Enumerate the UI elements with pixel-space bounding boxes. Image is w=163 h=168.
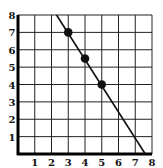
x-tick-label: 7 [132, 157, 139, 168]
y-tick-label: 2 [9, 114, 16, 125]
data-point [97, 80, 106, 89]
x-tick-label: 4 [82, 157, 89, 168]
y-tick-label: 3 [9, 97, 16, 108]
coordinate-grid-chart: 12345678 12345678 [0, 0, 163, 168]
x-tick-label: 6 [115, 157, 122, 168]
y-tick-label: 8 [9, 10, 16, 21]
x-tick-label: 1 [31, 157, 38, 168]
x-axis-tick-labels: 12345678 [31, 157, 155, 168]
y-tick-label: 5 [9, 62, 16, 73]
y-tick-label: 7 [9, 27, 16, 38]
y-tick-label: 4 [9, 80, 16, 91]
x-tick-label: 8 [149, 157, 156, 168]
y-tick-label: 1 [9, 132, 16, 143]
y-axis-tick-labels: 12345678 [9, 10, 16, 143]
data-point [64, 28, 73, 37]
x-tick-label: 5 [98, 157, 105, 168]
y-tick-label: 6 [9, 45, 16, 56]
x-tick-label: 3 [65, 157, 72, 168]
x-tick-label: 2 [48, 157, 55, 168]
data-point [81, 54, 90, 63]
